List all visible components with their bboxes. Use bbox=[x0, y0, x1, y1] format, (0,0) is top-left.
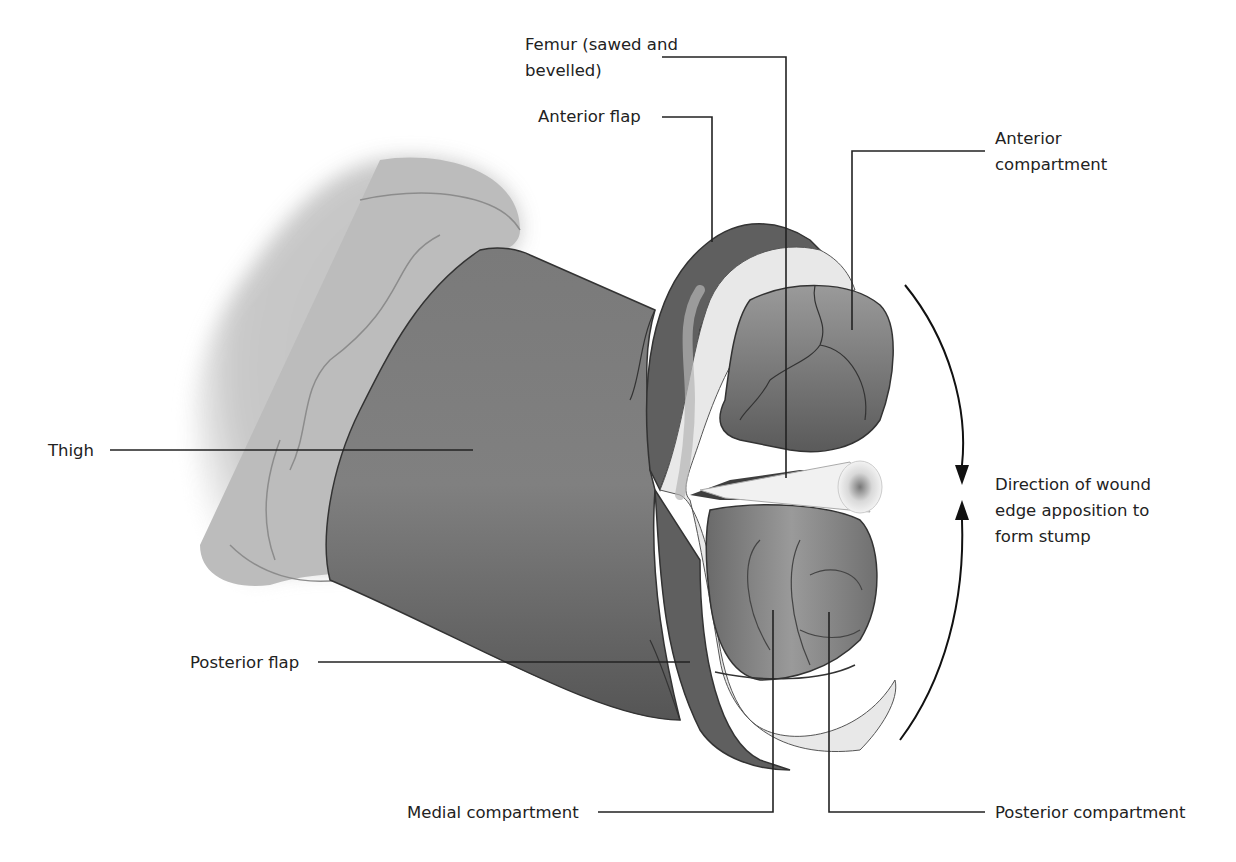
anterior-compartment-muscle bbox=[720, 286, 893, 452]
label-direction-line1: Direction of wound bbox=[995, 475, 1151, 494]
arrow-down-icon bbox=[955, 465, 969, 485]
illustration: Femur (sawed and bevelled) Anterior flap… bbox=[0, 0, 1236, 862]
label-femur-line2: bevelled) bbox=[525, 61, 602, 80]
label-direction-line2: edge apposition to bbox=[995, 501, 1149, 520]
amputation-diagram: Femur (sawed and bevelled) Anterior flap… bbox=[0, 0, 1236, 862]
label-anterior-compartment-line2: compartment bbox=[995, 155, 1108, 174]
label-anterior-compartment-line1: Anterior bbox=[995, 129, 1062, 148]
label-femur-line1: Femur (sawed and bbox=[525, 35, 678, 54]
label-thigh: Thigh bbox=[47, 441, 94, 460]
arrow-up-icon bbox=[955, 500, 969, 520]
label-direction-line3: form stump bbox=[995, 527, 1091, 546]
label-posterior-compartment: Posterior compartment bbox=[995, 803, 1186, 822]
label-posterior-flap: Posterior flap bbox=[190, 653, 299, 672]
apposition-arrows bbox=[900, 285, 969, 740]
label-medial-compartment: Medial compartment bbox=[407, 803, 579, 822]
label-anterior-flap: Anterior flap bbox=[538, 107, 641, 126]
leader-anterior-flap bbox=[662, 117, 712, 242]
